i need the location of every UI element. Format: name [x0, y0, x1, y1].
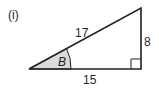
right-angle-marker — [131, 59, 141, 69]
part-label: (i) — [8, 8, 19, 22]
angle-label: B — [58, 55, 66, 69]
opposite-label: 8 — [144, 35, 151, 49]
triangle-diagram: (i) 17 8 15 B — [0, 0, 159, 91]
hypotenuse-label: 17 — [75, 26, 89, 40]
adjacent-label: 15 — [83, 73, 97, 87]
